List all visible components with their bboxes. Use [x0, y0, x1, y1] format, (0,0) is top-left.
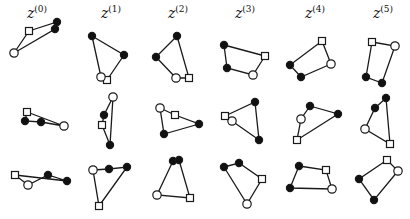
quadrilateral-edges	[290, 41, 331, 77]
quadrilateral-7	[99, 93, 118, 149]
quadrilateral-edges	[92, 36, 124, 80]
filled-circle-vertex-icon	[371, 104, 378, 111]
quadrilateral-grid-figure	[0, 0, 410, 219]
quadrilateral-16	[286, 162, 336, 193]
square-vertex-icon	[259, 176, 266, 183]
open-circle-vertex-icon	[328, 185, 336, 193]
filled-circle-vertex-icon	[63, 177, 70, 184]
square-vertex-icon	[24, 109, 31, 116]
filled-circle-vertex-icon	[297, 73, 304, 80]
quadrilateral-edges	[15, 175, 67, 185]
filled-circle-vertex-icon	[100, 111, 107, 118]
open-circle-vertex-icon	[243, 200, 251, 208]
filled-circle-vertex-icon	[44, 171, 51, 178]
quadrilateral-8	[156, 104, 203, 138]
filled-circle-vertex-icon	[123, 163, 130, 170]
square-vertex-icon	[222, 113, 229, 120]
open-circle-vertex-icon	[249, 71, 257, 79]
filled-circle-vertex-icon	[286, 61, 293, 68]
quadrilateral-3	[220, 41, 268, 79]
quadrilateral-1	[88, 32, 127, 83]
filled-circle-vertex-icon	[295, 162, 302, 169]
square-vertex-icon	[369, 39, 376, 46]
quadrilateral-4	[286, 38, 335, 81]
open-circle-vertex-icon	[391, 42, 399, 50]
square-vertex-icon	[384, 157, 391, 164]
filled-circle-vertex-icon	[255, 136, 262, 143]
filled-circle-vertex-icon	[173, 32, 180, 39]
filled-circle-vertex-icon	[251, 98, 258, 105]
filled-circle-vertex-icon	[378, 79, 385, 86]
open-circle-vertex-icon	[10, 49, 18, 57]
quadrilateral-2	[152, 32, 192, 82]
quadrilateral-6	[21, 109, 68, 131]
quadrilateral-edges	[160, 108, 199, 134]
square-vertex-icon	[262, 53, 269, 60]
filled-circle-vertex-icon	[160, 130, 167, 137]
filled-circle-vertex-icon	[195, 120, 202, 127]
open-circle-vertex-icon	[297, 115, 305, 123]
filled-circle-vertex-icon	[235, 159, 242, 166]
quadrilateral-11	[361, 94, 394, 147]
open-circle-vertex-icon	[327, 60, 335, 68]
quadrilateral-edges	[14, 22, 57, 53]
filled-circle-vertex-icon	[152, 53, 159, 60]
open-circle-vertex-icon	[394, 167, 402, 175]
quadrilateral-5	[362, 39, 399, 87]
quadrilateral-9	[222, 98, 263, 143]
filled-circle-vertex-icon	[106, 141, 113, 148]
quadrilateral-10	[294, 102, 342, 143]
open-circle-vertex-icon	[60, 122, 68, 130]
open-circle-vertex-icon	[153, 191, 161, 199]
square-vertex-icon	[323, 167, 330, 174]
open-circle-vertex-icon	[156, 104, 164, 112]
quadrilateral-edges	[156, 36, 189, 78]
quadrilateral-0	[10, 18, 61, 57]
open-circle-vertex-icon	[361, 125, 369, 133]
square-vertex-icon	[319, 38, 326, 45]
quadrilateral-edges	[366, 42, 395, 83]
filled-circle-vertex-icon	[21, 117, 28, 124]
square-vertex-icon	[26, 28, 33, 35]
filled-circle-vertex-icon	[370, 196, 377, 203]
square-vertex-icon	[294, 137, 301, 144]
quadrilateral-edges	[157, 160, 190, 198]
square-vertex-icon	[99, 122, 106, 129]
quadrilateral-13	[89, 163, 131, 209]
open-circle-vertex-icon	[109, 93, 117, 101]
filled-circle-vertex-icon	[286, 184, 293, 191]
quadrilateral-edges	[359, 160, 398, 200]
open-circle-vertex-icon	[89, 166, 97, 174]
square-vertex-icon	[187, 195, 194, 202]
square-vertex-icon	[186, 75, 193, 82]
filled-circle-vertex-icon	[334, 110, 341, 117]
filled-circle-vertex-icon	[355, 175, 362, 182]
quadrilateral-12	[12, 171, 71, 189]
square-vertex-icon	[172, 112, 179, 119]
filled-circle-vertex-icon	[51, 25, 58, 32]
open-circle-vertex-icon	[24, 181, 32, 189]
filled-circle-vertex-icon	[120, 51, 127, 58]
open-circle-vertex-icon	[172, 74, 180, 82]
square-vertex-icon	[12, 172, 19, 179]
quadrilateral-15	[220, 159, 265, 208]
filled-circle-vertex-icon	[362, 73, 369, 80]
filled-circle-vertex-icon	[53, 18, 60, 25]
quadrilateral-14	[153, 156, 194, 201]
filled-circle-vertex-icon	[223, 64, 230, 71]
filled-circle-vertex-icon	[382, 94, 389, 101]
filled-circle-vertex-icon	[105, 165, 112, 172]
filled-circle-vertex-icon	[175, 156, 182, 163]
square-vertex-icon	[387, 141, 394, 148]
quadrilateral-edges	[224, 163, 262, 204]
quadrilateral-17	[355, 157, 402, 204]
filled-circle-vertex-icon	[88, 32, 95, 39]
square-vertex-icon	[96, 203, 103, 210]
filled-circle-vertex-icon	[306, 102, 313, 109]
open-circle-vertex-icon	[97, 73, 105, 81]
filled-circle-vertex-icon	[220, 163, 227, 170]
filled-circle-vertex-icon	[37, 118, 44, 125]
filled-circle-vertex-icon	[220, 41, 227, 48]
